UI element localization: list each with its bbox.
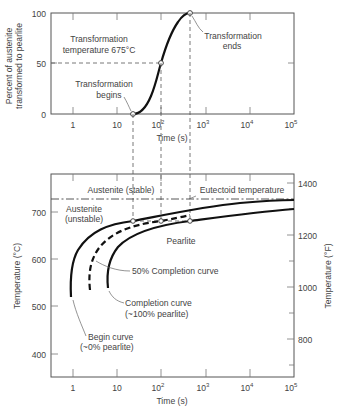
- top-ytick-0: 0: [41, 110, 46, 120]
- ytick-500: 500: [32, 302, 47, 312]
- begins-leader: [124, 97, 131, 111]
- top-xtick-1e5: 105: [285, 119, 299, 130]
- label-eutectoid-temperature: Eutectoid temperature: [200, 185, 285, 195]
- top-xtick-1e3: 103: [197, 119, 211, 130]
- label-austenite-stable: Austenite (stable): [88, 185, 155, 195]
- top-ytick-50: 50: [36, 59, 46, 69]
- fifty-point-675: [159, 219, 164, 224]
- ytick-right-800: 800: [298, 335, 313, 345]
- label-begin-line2: (~0% pearlite): [80, 342, 134, 352]
- xtick-10: 10: [112, 383, 122, 393]
- ttt-figure: 100 50 0 1 10 102 103 104 105 Time (s) P…: [0, 0, 341, 407]
- begin-point-675: [131, 219, 136, 224]
- ytick-right-1400: 1400: [298, 179, 317, 189]
- top-xtick-1: 1: [71, 120, 76, 130]
- annotation-ends-line2: ends: [223, 41, 242, 51]
- annotation-begins-line1: Transformation: [75, 79, 133, 89]
- ends-leader: [192, 16, 203, 32]
- annotation-begins-line2: begins: [96, 90, 121, 100]
- xtick-1: 1: [71, 383, 76, 393]
- ytick-400: 400: [32, 350, 47, 360]
- label-austenite-unstable-line2: (unstable): [65, 214, 103, 224]
- ytick-700: 700: [32, 208, 47, 218]
- bottom-xlabel: Time (s): [156, 396, 187, 406]
- begin-leader: [73, 300, 86, 336]
- top-ylabel-line1: Percent of austenite: [4, 28, 14, 105]
- fifty-percent-curve: [89, 215, 190, 290]
- xtick-1e3: 103: [197, 382, 211, 393]
- annotation-ends-line1: Transformation: [204, 31, 262, 41]
- bottom-plot: 700 600 500 400 1400 1200 1000 800 1 10 …: [12, 174, 333, 406]
- top-xtick-10: 10: [112, 120, 122, 130]
- xtick-1e5: 105: [285, 382, 299, 393]
- completion-point-675: [188, 219, 193, 224]
- top-plot-frame: [51, 13, 294, 114]
- label-fifty-curve: 50% Completion curve: [132, 266, 219, 276]
- ytick-right-1000: 1000: [298, 283, 317, 293]
- top-xtick-1e4: 104: [241, 119, 255, 130]
- xtick-1e4: 104: [241, 382, 255, 393]
- label-austenite-unstable-line1: Austenite: [66, 204, 102, 214]
- label-completion-line2: (~100% pearlite): [125, 309, 188, 319]
- top-ylabel-line2: transformed to pearlite: [14, 23, 24, 109]
- label-pearlite: Pearlite: [166, 236, 195, 246]
- top-ytick-100: 100: [32, 9, 47, 19]
- annotation-temp-line1: Transformation: [70, 34, 128, 44]
- bottom-ylabel-fahrenheit: Temperature (°F): [323, 243, 333, 308]
- xtick-1e2: 102: [152, 382, 166, 393]
- completion-leader: [109, 291, 124, 303]
- label-completion-line1: Completion curve: [125, 298, 192, 308]
- top-plot: 100 50 0 1 10 102 103 104 105 Time (s) P…: [4, 9, 298, 143]
- label-begin-line1: Begin curve: [88, 332, 134, 342]
- begin-curve: [71, 200, 294, 297]
- annotation-temp-line2: temperature 675°C: [63, 45, 136, 55]
- fifty-leader: [96, 261, 130, 271]
- top-xtick-1e2: 102: [152, 119, 166, 130]
- ytick-right-1200: 1200: [298, 231, 317, 241]
- bottom-ylabel-celsius: Temperature (°C): [12, 243, 22, 309]
- ytick-600: 600: [32, 255, 47, 265]
